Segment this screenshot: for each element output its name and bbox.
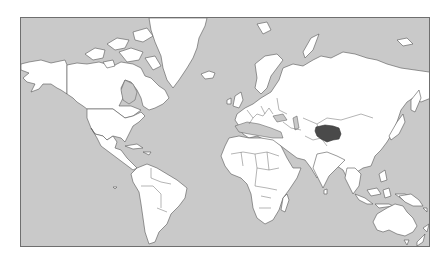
region-tasmania <box>404 240 409 245</box>
region-southeast-asia <box>345 168 361 194</box>
region-india <box>313 152 345 188</box>
region-indonesia <box>355 170 413 208</box>
region-british-isles <box>227 92 243 108</box>
world-map-svg <box>21 18 430 247</box>
region-novaya-zemlya <box>303 34 319 58</box>
region-new-guinea <box>399 194 423 206</box>
region-new-siberian-islands <box>397 38 413 46</box>
region-canada <box>67 62 169 118</box>
region-new-zealand <box>417 224 429 246</box>
region-south-america <box>131 164 187 244</box>
region-iceland <box>201 71 215 79</box>
world-map <box>20 17 430 247</box>
region-svalbard <box>257 22 271 34</box>
region-greenland <box>149 18 207 88</box>
region-australia <box>373 204 417 236</box>
region-usa <box>87 109 145 142</box>
region-sri-lanka <box>324 189 327 194</box>
region-caribbean <box>125 144 151 155</box>
region-alaska <box>21 60 67 94</box>
